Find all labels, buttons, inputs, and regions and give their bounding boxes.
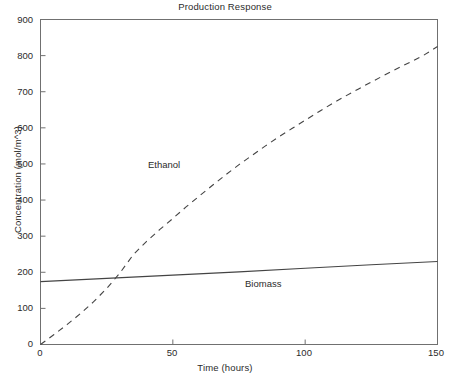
chart-figure: Production Response Concentration (mol/m… <box>0 0 450 377</box>
plot-canvas <box>0 0 450 377</box>
series-line-ethanol <box>41 47 438 345</box>
series-line-biomass <box>41 261 438 281</box>
